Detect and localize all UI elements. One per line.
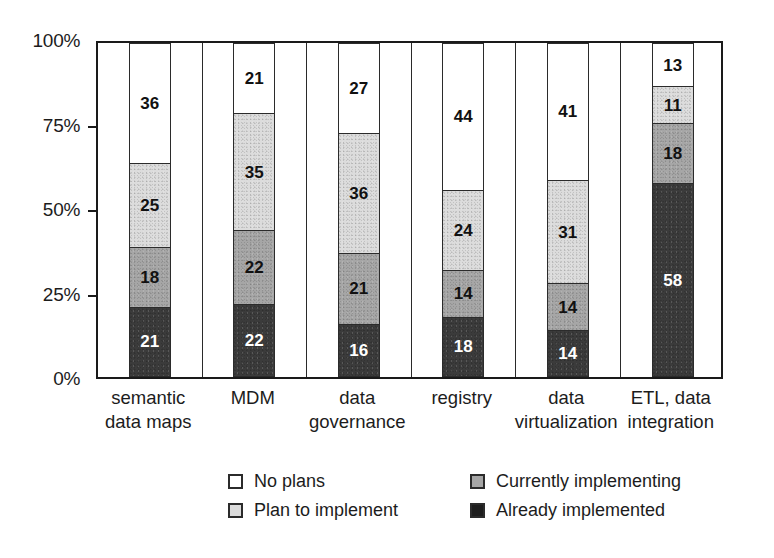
plot-area: 3625182121352222273621164424141841311414…: [96, 41, 723, 379]
bar-segment-value-label: 14: [558, 299, 577, 316]
bar-segment[interactable]: 21: [233, 43, 275, 113]
bar-segment[interactable]: 11: [652, 86, 694, 123]
x-axis-category-label: data virtualization: [514, 386, 619, 435]
bar-segment[interactable]: 21: [338, 253, 380, 323]
bar-segment-value-label: 22: [245, 332, 264, 349]
y-axis-tick-label: 75%: [43, 115, 80, 137]
legend-item[interactable]: Plan to implement: [228, 501, 398, 519]
bar-segment-value-label: 21: [245, 70, 264, 87]
bar-segment-value-label: 36: [349, 185, 368, 202]
legend-label: Plan to implement: [254, 501, 398, 519]
stacked-bar-chart-figure: 0%25%50%75%100% 362518212135222227362116…: [0, 0, 774, 558]
legend-swatch-icon: [470, 474, 485, 489]
x-axis-category-label: data governance: [305, 386, 410, 435]
bar-segment-value-label: 44: [454, 108, 473, 125]
bar-segment-value-label: 22: [245, 259, 264, 276]
bar-segment-value-label: 18: [454, 338, 473, 355]
bar-segment[interactable]: 18: [652, 123, 694, 183]
bar-segment[interactable]: 41: [547, 43, 589, 180]
y-axis-tick-label: 25%: [43, 284, 80, 306]
bar-segment[interactable]: 31: [547, 180, 589, 284]
bar-segment-value-label: 18: [140, 269, 159, 286]
bar-segment[interactable]: 22: [233, 304, 275, 378]
y-axis-tick-label: 100%: [33, 30, 80, 52]
legend-label: Currently implementing: [496, 472, 681, 490]
bar-segment[interactable]: 21: [129, 307, 171, 377]
bar-stack[interactable]: 36251821: [129, 43, 171, 377]
bar-segment-value-label: 16: [349, 342, 368, 359]
bar-segment-value-label: 25: [140, 197, 159, 214]
bar-segment[interactable]: 36: [338, 133, 380, 253]
bar-segment[interactable]: 18: [442, 317, 484, 377]
legend-swatch-icon: [228, 503, 243, 518]
bar-segment-value-label: 27: [349, 80, 368, 97]
y-axis: 0%25%50%75%100%: [0, 41, 80, 379]
legend-item[interactable]: Currently implementing: [470, 472, 681, 490]
y-axis-tick-label: 50%: [43, 199, 80, 221]
bar-segment[interactable]: 16: [338, 324, 380, 377]
legend-item[interactable]: Already implemented: [470, 501, 665, 519]
bar-segment-value-label: 58: [663, 272, 682, 289]
bar-segment-value-label: 14: [558, 345, 577, 362]
bar-stack[interactable]: 44241418: [442, 43, 484, 377]
bar-segment-value-label: 11: [664, 97, 682, 114]
bar-stack[interactable]: 27362116: [338, 43, 380, 377]
bar-segment-value-label: 13: [663, 57, 682, 74]
bar-segment[interactable]: 25: [129, 163, 171, 247]
x-axis-category-label: ETL, data integration: [619, 386, 724, 435]
chart-legend: No plansPlan to implementCurrently imple…: [228, 472, 668, 534]
x-axis-category-label: registry: [410, 386, 515, 410]
bar-slot: 36251821: [98, 43, 203, 377]
legend-label: Already implemented: [496, 501, 665, 519]
bar-segment[interactable]: 36: [129, 43, 171, 163]
legend-swatch-icon: [228, 474, 243, 489]
bar-slot: 21352222: [203, 43, 308, 377]
x-axis-category-label: MDM: [201, 386, 306, 410]
legend-item[interactable]: No plans: [228, 472, 325, 490]
bar-segment-value-label: 31: [558, 224, 577, 241]
bar-stack[interactable]: 13111858: [652, 43, 694, 377]
bar-segment-value-label: 21: [140, 333, 159, 350]
bar-segment[interactable]: 13: [652, 43, 694, 86]
bar-segment[interactable]: 22: [233, 230, 275, 303]
bar-segment-value-label: 24: [454, 222, 473, 239]
x-axis-category-label: semantic data maps: [96, 386, 201, 435]
legend-label: No plans: [254, 472, 325, 490]
bar-segment-value-label: 18: [663, 145, 682, 162]
y-axis-tick-label: 0%: [53, 368, 80, 390]
bar-stack[interactable]: 21352222: [233, 43, 275, 377]
bar-segment[interactable]: 18: [129, 247, 171, 307]
bar-segment-value-label: 21: [349, 280, 368, 297]
x-axis-category-labels: semantic data mapsMDMdata governanceregi…: [96, 386, 723, 446]
bar-slot: 41311414: [516, 43, 621, 377]
bar-slot: 13111858: [621, 43, 726, 377]
bar-segment[interactable]: 14: [547, 283, 589, 330]
bar-stack[interactable]: 41311414: [547, 43, 589, 377]
bar-segment[interactable]: 35: [233, 113, 275, 230]
bar-segment[interactable]: 14: [547, 330, 589, 377]
bar-slot: 27362116: [307, 43, 412, 377]
bar-segment[interactable]: 27: [338, 43, 380, 133]
bar-slot: 44241418: [412, 43, 517, 377]
bar-segment-value-label: 14: [454, 285, 473, 302]
bar-segment[interactable]: 44: [442, 43, 484, 190]
bar-segment[interactable]: 14: [442, 270, 484, 317]
bar-segment[interactable]: 24: [442, 190, 484, 270]
bar-segment-value-label: 41: [558, 103, 577, 120]
legend-swatch-icon: [470, 503, 485, 518]
bar-segment-value-label: 35: [245, 164, 264, 181]
bar-segment[interactable]: 58: [652, 183, 694, 377]
bar-segment-value-label: 36: [140, 95, 159, 112]
